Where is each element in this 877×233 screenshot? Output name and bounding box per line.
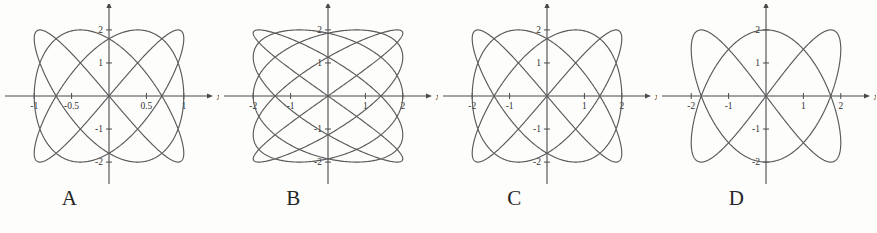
- svg-text:x: x: [873, 92, 876, 102]
- svg-text:2: 2: [317, 25, 322, 35]
- plot-area-c: xy-2-11221-1-2: [438, 4, 657, 184]
- svg-text:1: 1: [801, 101, 806, 111]
- svg-text:1: 1: [755, 58, 760, 68]
- svg-text:-1: -1: [506, 101, 514, 111]
- panel-label-d: D: [627, 186, 846, 211]
- plot-area-a: xy-1-0.50.5121-1-2: [0, 4, 219, 184]
- panel-label-a: A: [0, 186, 179, 211]
- chart-panel-d: xy-2-11221-1-2 D: [657, 0, 876, 233]
- plot-area-b: xy-2-11221-1-2: [219, 4, 438, 184]
- svg-text:1: 1: [536, 58, 541, 68]
- chart-panel-c: xy-2-11221-1-2 C: [438, 0, 657, 233]
- svg-text:-1: -1: [725, 101, 733, 111]
- svg-text:-1: -1: [752, 124, 760, 134]
- lissajous-svg-b: xy-2-11221-1-2: [219, 4, 438, 184]
- svg-text:-2: -2: [687, 101, 695, 111]
- svg-text:-2: -2: [314, 157, 322, 167]
- lissajous-svg-d: xy-2-11221-1-2: [657, 4, 876, 184]
- svg-text:-2: -2: [752, 157, 760, 167]
- svg-text:-0.5: -0.5: [64, 101, 79, 111]
- lissajous-svg-a: xy-1-0.50.5121-1-2: [0, 4, 219, 184]
- figure-container: xy-1-0.50.5121-1-2 A xy-2-11221-1-2 B xy…: [0, 0, 877, 233]
- svg-text:-1: -1: [533, 124, 541, 134]
- svg-text:2: 2: [838, 101, 843, 111]
- svg-text:1: 1: [98, 58, 103, 68]
- svg-text:1: 1: [582, 101, 587, 111]
- plot-area-d: xy-2-11221-1-2: [657, 4, 876, 184]
- svg-text:0.5: 0.5: [140, 101, 152, 111]
- svg-text:-1: -1: [95, 124, 103, 134]
- panel-label-c: C: [405, 186, 624, 211]
- panel-label-b: B: [184, 186, 403, 211]
- lissajous-svg-c: xy-2-11221-1-2: [438, 4, 657, 184]
